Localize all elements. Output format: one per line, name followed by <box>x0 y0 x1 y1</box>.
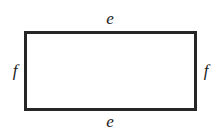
figure-canvas: e e f f <box>0 0 221 134</box>
bottom-side-label: e <box>99 113 121 130</box>
right-side-label: f <box>197 62 215 79</box>
left-side-label: f <box>6 62 24 79</box>
top-side-label: e <box>99 10 121 27</box>
rectangle-shape <box>24 31 197 111</box>
